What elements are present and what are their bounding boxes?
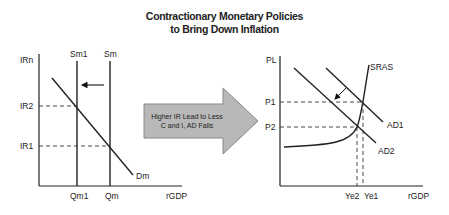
ad1-label: AD1 — [387, 120, 404, 130]
demand-label-dm: Dm — [136, 171, 149, 181]
ad-shift-arrow-icon — [335, 88, 346, 99]
demand-curve-dm — [52, 78, 133, 175]
ad2-label: AD2 — [378, 146, 395, 156]
x-axis-label: rGDP — [166, 191, 188, 201]
ad-as-graph: PL rGDP SRAS AD1 AD2 P1 P2 Ye2 Ye1 — [265, 55, 430, 201]
block-arrow-icon — [144, 88, 258, 154]
supply-label-sm1: Sm1 — [70, 49, 88, 59]
y-axis-label: IRn — [20, 55, 34, 65]
ad1-curve — [326, 68, 383, 122]
x-axis-label: rGDP — [408, 191, 430, 201]
arrow-text-line-2: C and I, AD Falls — [161, 122, 214, 129]
y-tick-ir1: IR1 — [20, 141, 34, 151]
x-tick-ye2: Ye2 — [345, 191, 360, 201]
transmission-arrow: Higher IR Lead to Less C and I, AD Falls — [144, 88, 258, 154]
arrow-text-line-1: Higher IR Lead to Less — [151, 113, 223, 121]
y-tick-ir2: IR2 — [20, 101, 34, 111]
x-tick-qm: Qm — [105, 191, 119, 201]
sras-label: SRAS — [370, 62, 393, 72]
ad2-curve — [294, 68, 376, 143]
y-tick-p1: P1 — [265, 97, 276, 107]
diagram-canvas: IRn rGDP Sm1 Sm Dm IR2 IR1 Qm1 Qm Higher… — [0, 0, 449, 215]
supply-label-sm: Sm — [104, 49, 117, 59]
y-tick-p2: P2 — [265, 122, 276, 132]
sras-curve — [284, 65, 369, 147]
x-tick-ye1: Ye1 — [364, 191, 379, 201]
y-axis-label: PL — [266, 55, 277, 65]
x-tick-qm1: Qm1 — [70, 191, 89, 201]
